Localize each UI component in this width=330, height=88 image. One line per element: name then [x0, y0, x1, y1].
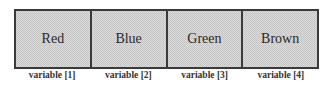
index-label-3: variable [3] [167, 70, 243, 80]
index-label-2: variable [2] [90, 70, 166, 80]
index-label-1: variable [1] [14, 70, 90, 80]
array-cell-3: Green [168, 11, 244, 67]
array-diagram: Red Blue Green Brown [14, 9, 319, 69]
index-label-4: variable [4] [243, 70, 319, 80]
array-cell-1: Red [16, 11, 92, 67]
array-cell-2: Blue [92, 11, 168, 67]
array-cell-4: Brown [243, 11, 317, 67]
index-labels: variable [1] variable [2] variable [3] v… [14, 70, 319, 80]
